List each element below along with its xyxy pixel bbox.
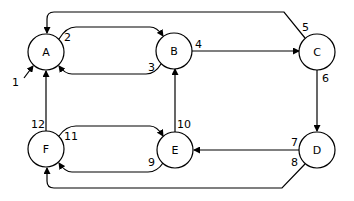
edge-label-12: 12 bbox=[31, 118, 45, 131]
edge-label-6: 6 bbox=[322, 72, 329, 85]
edge-label-5: 5 bbox=[302, 21, 309, 34]
edge-10: 10 bbox=[175, 69, 191, 132]
node-label-f: F bbox=[43, 143, 49, 156]
edge-6: 6 bbox=[317, 70, 329, 131]
node-b: B bbox=[156, 33, 192, 69]
node-a: A bbox=[28, 34, 64, 70]
node-e: E bbox=[157, 132, 193, 168]
edge-label-7: 7 bbox=[291, 136, 298, 149]
edge-label-10: 10 bbox=[177, 118, 191, 131]
node-d: D bbox=[299, 132, 335, 168]
graph-svg: 1 2 3 4 5 6 7 8 9 10 bbox=[0, 0, 354, 201]
node-c: C bbox=[299, 34, 335, 70]
node-label-b: B bbox=[170, 45, 178, 58]
graph-canvas: 1 2 3 4 5 6 7 8 9 10 bbox=[0, 0, 354, 201]
node-label-a: A bbox=[42, 46, 50, 59]
edge-9: 9 bbox=[59, 156, 163, 172]
node-label-d: D bbox=[313, 144, 321, 157]
edge-7: 7 bbox=[194, 136, 299, 150]
edge-label-9: 9 bbox=[148, 156, 155, 169]
edge-11: 11 bbox=[59, 126, 163, 143]
node-f: F bbox=[28, 131, 64, 167]
node-label-e: E bbox=[172, 144, 179, 157]
edge-12: 12 bbox=[31, 71, 46, 131]
edge-1: 1 bbox=[12, 66, 33, 89]
edge-label-1: 1 bbox=[12, 76, 19, 89]
edge-2: 2 bbox=[59, 27, 163, 44]
edge-label-3: 3 bbox=[148, 61, 155, 74]
edge-label-4: 4 bbox=[195, 38, 202, 51]
edge-4: 4 bbox=[191, 38, 299, 51]
edge-label-2: 2 bbox=[64, 31, 71, 44]
node-label-c: C bbox=[313, 46, 321, 59]
edge-label-11: 11 bbox=[64, 130, 78, 143]
edge-label-8: 8 bbox=[291, 156, 298, 169]
edge-3: 3 bbox=[59, 61, 161, 74]
